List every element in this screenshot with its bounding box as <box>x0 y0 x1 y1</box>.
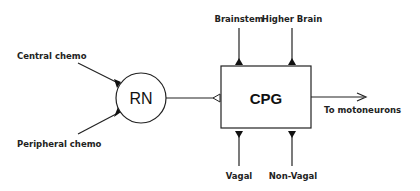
non-vagal-connector <box>288 131 296 166</box>
respiratory-control-diagram: RN CPG <box>0 0 420 191</box>
open-triangle-icon <box>213 94 220 102</box>
diagram-svg: RN CPG <box>0 0 420 191</box>
peripheral-chemo-label: Peripheral chemo <box>17 139 102 149</box>
vagal-connector <box>235 131 243 166</box>
non-vagal-label: Non-Vagal <box>269 171 318 181</box>
brainstem-label: Brainstem <box>214 14 263 24</box>
down-arrowhead-icon <box>235 131 243 138</box>
vagal-label: Vagal <box>226 171 253 181</box>
up-arrowhead-icon <box>288 58 296 65</box>
down-arrowhead-icon <box>288 131 296 138</box>
central-chemo-connector <box>78 63 121 88</box>
up-arrowhead-icon <box>235 58 243 65</box>
brainstem-connector <box>235 28 243 65</box>
peripheral-chemo-connector <box>78 107 121 134</box>
cpg-label: CPG <box>250 90 283 107</box>
rn-to-cpg-connector <box>166 94 220 102</box>
higher-brain-connector <box>288 28 296 65</box>
rn-label: RN <box>129 90 152 107</box>
higher-brain-label: Higher Brain <box>262 14 322 24</box>
central-chemo-label: Central chemo <box>17 51 87 61</box>
motoneurons-label: To motoneurons <box>324 105 401 115</box>
motoneurons-connector <box>311 93 366 101</box>
